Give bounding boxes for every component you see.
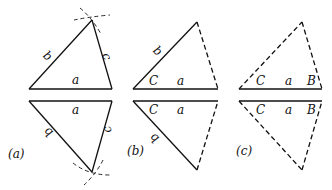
label-b-top-left: b	[150, 43, 165, 59]
label-c-top-right-angle: B	[306, 74, 316, 88]
label-a-bottom-base: a	[72, 103, 79, 117]
label-b-bottom-angle: C	[149, 103, 158, 117]
label-b-top-angle: C	[149, 74, 158, 88]
label-a-bottom-right: c	[99, 124, 114, 134]
caption-b: (b)	[127, 144, 144, 158]
label-a-bottom-left: b	[41, 124, 56, 140]
caption-c: (c)	[236, 144, 252, 158]
label-a-top-base: a	[72, 73, 79, 87]
panel-a	[29, 8, 112, 185]
triangle-congruence-diagram: a b c a b c (a) a C b a C b (b) C a B C …	[0, 0, 332, 190]
label-c-top-base: a	[285, 74, 292, 88]
label-b-top-base: a	[177, 74, 184, 88]
caption-a: (a)	[8, 147, 25, 161]
label-c-bottom-base: a	[285, 103, 292, 117]
label-c-top-left-angle: C	[256, 74, 265, 88]
label-a-top-left: b	[40, 48, 55, 64]
label-b-bottom-base: a	[177, 103, 184, 117]
panel-b	[133, 22, 218, 170]
label-c-bottom-right-angle: B	[306, 103, 316, 117]
label-c-bottom-left-angle: C	[256, 103, 265, 117]
label-b-bottom-left: b	[147, 130, 162, 146]
